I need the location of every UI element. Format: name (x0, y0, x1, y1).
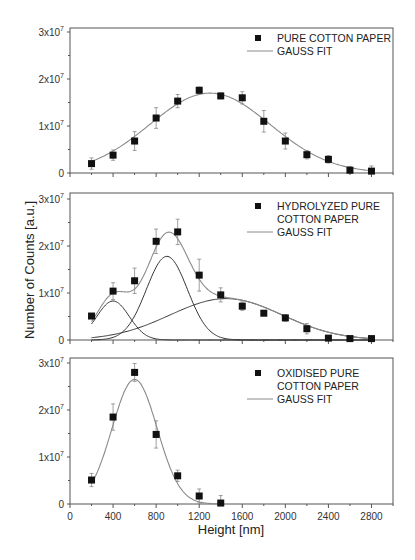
legend-label: COTTON PAPER (277, 213, 359, 225)
legend-label: PURE COTTON PAPER (277, 32, 391, 44)
data-point-marker (153, 115, 160, 122)
data-point-marker (153, 431, 160, 438)
data-point-marker (174, 472, 181, 479)
data-point-marker (325, 156, 332, 163)
data-point-marker (88, 477, 95, 484)
y-tick-label: 0 (58, 168, 64, 179)
data-point-marker (325, 335, 332, 342)
y-tick-label: 2x107 (38, 403, 64, 416)
x-tick-label: 2400 (317, 511, 340, 522)
x-tick-label: 1600 (231, 511, 254, 522)
data-point-marker (110, 152, 117, 159)
data-point-marker (217, 500, 224, 507)
data-point-marker (174, 228, 181, 235)
legend-fit-label: GAUSS FIT (277, 45, 333, 57)
data-point-marker (239, 303, 246, 310)
data-point-marker (131, 369, 138, 376)
data-point-marker (131, 138, 138, 145)
data-point-marker (217, 291, 224, 298)
data-point-marker (196, 87, 203, 94)
y-tick-label: 3x107 (38, 192, 64, 205)
y-tick-label: 0 (58, 499, 64, 510)
panel-hydrolyzed-pure-cotton-paper: 01x1072x1073x107HYDROLYZED PURECOTTON PA… (38, 192, 393, 346)
data-point-marker (282, 314, 289, 321)
data-point-marker (260, 310, 267, 317)
data-point-marker (346, 335, 353, 342)
data-point-marker (88, 313, 95, 320)
data-point-marker (110, 288, 117, 295)
y-axis-label: Number of Counts [a.u.] (22, 201, 37, 339)
y-tick-label: 2x107 (38, 239, 64, 252)
legend-marker-icon (255, 370, 261, 376)
panel-pure-cotton-paper: 01x1072x1073x107PURE COTTON PAPERGAUSS F… (38, 25, 393, 179)
x-axis-label: Height [nm] (198, 522, 264, 537)
x-tick-label: 400 (105, 511, 122, 522)
data-point-marker (346, 167, 353, 174)
data-point-marker (196, 272, 203, 279)
y-tick-label: 1x107 (38, 450, 64, 463)
data-point-marker (282, 138, 289, 145)
figure: 01x1072x1073x107PURE COTTON PAPERGAUSS F… (0, 0, 415, 560)
y-tick-label: 1x107 (38, 119, 64, 132)
data-point-marker (368, 335, 375, 342)
legend-fit-label: GAUSS FIT (277, 393, 333, 405)
panel-oxidised-pure-cotton-paper: 01x1072x1073x107040080012001600200024002… (38, 356, 393, 522)
plot-frame (70, 28, 393, 173)
y-tick-label: 1x107 (38, 286, 64, 299)
legend-label: OXIDISED PURE (277, 367, 359, 379)
legend-label: HYDROLYZED PURE (277, 200, 380, 212)
x-tick-label: 800 (148, 511, 165, 522)
data-point-marker (131, 277, 138, 284)
data-point-marker (174, 98, 181, 105)
data-point-marker (303, 151, 310, 158)
data-point-marker (303, 325, 310, 332)
legend-marker-icon (255, 203, 261, 209)
data-point-marker (239, 94, 246, 101)
data-point-marker (217, 92, 224, 99)
data-point-marker (260, 118, 267, 125)
x-tick-label: 1200 (188, 511, 211, 522)
data-point-marker (368, 168, 375, 175)
x-tick-label: 2000 (274, 511, 297, 522)
data-point-marker (88, 160, 95, 167)
data-point-marker (153, 238, 160, 245)
legend-marker-icon (255, 35, 261, 41)
y-tick-label: 3x107 (38, 356, 64, 369)
legend-label: COTTON PAPER (277, 380, 359, 392)
x-tick-label: 2800 (360, 511, 383, 522)
legend-fit-label: GAUSS FIT (277, 226, 333, 238)
data-point-marker (196, 493, 203, 500)
y-tick-label: 0 (58, 335, 64, 346)
y-tick-label: 2x107 (38, 72, 64, 85)
data-point-marker (110, 414, 117, 421)
x-tick-label: 0 (67, 511, 73, 522)
y-tick-label: 3x107 (38, 25, 64, 38)
gauss-component-curve (92, 301, 372, 340)
